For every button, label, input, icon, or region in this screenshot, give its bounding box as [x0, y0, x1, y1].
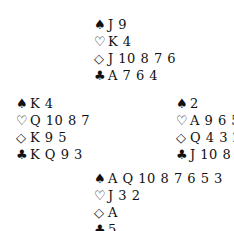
east-spades: 2 — [190, 95, 199, 112]
south-diamonds-row: ◇ A — [94, 204, 223, 221]
west-diamonds-row: ◇ K 9 5 — [16, 129, 90, 146]
south-clubs: 5 — [108, 221, 117, 231]
north-diamonds-row: ◇ J 10 8 7 6 — [94, 50, 176, 67]
west-diamonds: K 9 5 — [30, 129, 67, 146]
north-hearts-row: ♡ K 4 — [94, 33, 176, 50]
west-spades-row: ♠ K 4 — [16, 95, 90, 112]
west-hearts-row: ♡ Q 10 8 7 — [16, 112, 90, 129]
west-hearts: Q 10 8 7 — [30, 112, 90, 129]
spade-icon: ♠ — [176, 95, 190, 112]
club-icon: ♣ — [176, 146, 190, 163]
west-hand: ♠ K 4 ♡ Q 10 8 7 ◇ K 9 5 ♣ K Q 9 3 — [16, 95, 90, 163]
west-clubs: K Q 9 3 — [30, 146, 83, 163]
spade-icon: ♠ — [94, 170, 108, 187]
south-hearts: J 3 2 — [108, 187, 141, 204]
east-diamonds: Q 4 3 2 — [190, 129, 234, 146]
north-diamonds: J 10 8 7 6 — [108, 50, 176, 67]
spade-icon: ♠ — [16, 95, 30, 112]
south-diamonds: A — [108, 204, 118, 221]
north-spades: J 9 — [108, 16, 127, 33]
spade-icon: ♠ — [94, 16, 108, 33]
diamond-icon: ◇ — [94, 50, 108, 67]
east-hearts: A 9 6 5 — [190, 112, 234, 129]
heart-icon: ♡ — [94, 187, 108, 204]
north-spades-row: ♠ J 9 — [94, 16, 176, 33]
east-hearts-row: ♡ A 9 6 5 — [176, 112, 234, 129]
diamond-icon: ◇ — [176, 129, 190, 146]
south-spades: A Q 10 8 7 6 5 3 — [108, 170, 223, 187]
north-hearts: K 4 — [108, 33, 132, 50]
south-hand: ♠ A Q 10 8 7 6 5 3 ♡ J 3 2 ◇ A ♣ 5 — [94, 170, 223, 231]
club-icon: ♣ — [94, 67, 108, 84]
east-spades-row: ♠ 2 — [176, 95, 234, 112]
diamond-icon: ◇ — [16, 129, 30, 146]
north-clubs-row: ♣ A 7 6 4 — [94, 67, 176, 84]
west-clubs-row: ♣ K Q 9 3 — [16, 146, 90, 163]
club-icon: ♣ — [16, 146, 30, 163]
diamond-icon: ◇ — [94, 204, 108, 221]
south-spades-row: ♠ A Q 10 8 7 6 5 3 — [94, 170, 223, 187]
east-hand: ♠ 2 ♡ A 9 6 5 ◇ Q 4 3 2 ♣ J 10 8 2 — [176, 95, 234, 163]
north-hand: ♠ J 9 ♡ K 4 ◇ J 10 8 7 6 ♣ A 7 6 4 — [94, 16, 176, 84]
south-hearts-row: ♡ J 3 2 — [94, 187, 223, 204]
east-clubs-row: ♣ J 10 8 2 — [176, 146, 234, 163]
heart-icon: ♡ — [176, 112, 190, 129]
east-diamonds-row: ◇ Q 4 3 2 — [176, 129, 234, 146]
club-icon: ♣ — [94, 221, 108, 231]
heart-icon: ♡ — [94, 33, 108, 50]
west-spades: K 4 — [30, 95, 54, 112]
south-clubs-row: ♣ 5 — [94, 221, 223, 231]
north-clubs: A 7 6 4 — [108, 67, 158, 84]
east-clubs: J 10 8 2 — [190, 146, 234, 163]
heart-icon: ♡ — [16, 112, 30, 129]
